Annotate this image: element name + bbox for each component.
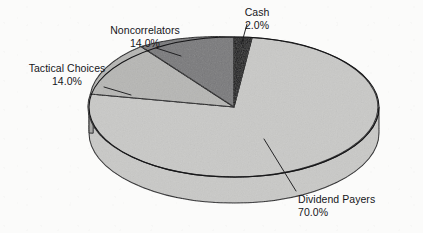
label-tactical-choices: Tactical Choices 14.0% bbox=[12, 62, 122, 87]
label-cash-percent: 2.0% bbox=[227, 19, 287, 32]
label-tactical-choices-percent: 14.0% bbox=[12, 75, 122, 88]
label-tactical-choices-name: Tactical Choices bbox=[29, 62, 106, 74]
label-cash: Cash 2.0% bbox=[227, 6, 287, 31]
pie-chart-figure: ——— bbox=[0, 0, 423, 233]
label-noncorrelators-name: Noncorrelators bbox=[110, 24, 180, 36]
label-noncorrelators-percent: 14.0% bbox=[96, 37, 194, 50]
label-dividend-payers-percent: 70.0% bbox=[298, 206, 410, 219]
label-noncorrelators: Noncorrelators 14.0% bbox=[96, 24, 194, 49]
label-dividend-payers: Dividend Payers 70.0% bbox=[298, 193, 410, 218]
label-cash-name: Cash bbox=[245, 6, 270, 18]
label-dividend-payers-name: Dividend Payers bbox=[298, 193, 375, 205]
